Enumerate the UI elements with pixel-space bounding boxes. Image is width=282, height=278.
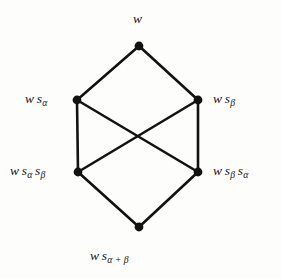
edge-top-to-left-upper — [77, 46, 139, 100]
label-base-w: w — [133, 11, 142, 26]
label-base-w: w — [213, 163, 222, 178]
label-subscript-beta: β — [230, 169, 235, 180]
node-right-lower — [194, 168, 203, 177]
label-subscript-beta: β — [230, 97, 235, 108]
edge-right-lower-to-bottom — [139, 172, 198, 227]
label-base-w: w — [25, 91, 34, 106]
lattice-graph — [0, 0, 282, 278]
label-base-w: w — [90, 248, 99, 263]
label-base-w: w — [10, 163, 19, 178]
node-label-right-upper: wsβ — [213, 92, 235, 107]
label-subscript-alpha: α — [243, 169, 248, 180]
label-subscript-alpha-plus-beta: α + β — [107, 254, 128, 265]
edge-left-upper-to-left-lower — [77, 100, 78, 172]
edge-left-lower-to-bottom — [78, 172, 139, 227]
label-subscript-alpha: α — [27, 169, 32, 180]
node-left-upper — [73, 96, 82, 105]
label-subscript-beta: β — [40, 169, 45, 180]
node-top — [135, 42, 144, 51]
node-bottom — [135, 223, 144, 232]
node-label-bottom: wsα + β — [90, 249, 129, 264]
label-base-w: w — [213, 91, 222, 106]
node-label-right-lower: wsβsα — [213, 164, 248, 179]
node-label-left-lower: wsαsβ — [10, 164, 45, 179]
node-left-lower — [74, 168, 83, 177]
edge-top-to-right-upper — [139, 46, 198, 100]
label-subscript-alpha: α — [42, 97, 47, 108]
lattice-diagram-figure: w wsα wsβ wsαsβ wsβsα wsα + β — [0, 0, 282, 278]
node-label-left-upper: wsα — [25, 92, 47, 107]
edge-group — [77, 46, 198, 227]
node-label-top: w — [133, 12, 142, 26]
node-right-upper — [194, 96, 203, 105]
